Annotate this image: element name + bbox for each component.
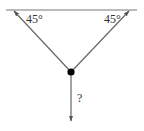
force-diagram: 45° 45° ? xyxy=(0,0,144,131)
junction-node xyxy=(67,68,74,75)
right-angle-label: 45° xyxy=(104,12,121,26)
unknown-force-label: ? xyxy=(77,91,82,105)
left-angle-label: 45° xyxy=(26,12,43,26)
